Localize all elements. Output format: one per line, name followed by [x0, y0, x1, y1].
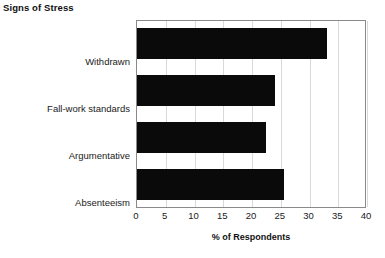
x-tick-label-5: 5 — [162, 210, 167, 221]
bar-1 — [137, 75, 275, 106]
category-label-3: Absenteeism — [2, 197, 130, 208]
x-tick-label-10: 10 — [188, 210, 199, 221]
bar-2 — [137, 122, 266, 153]
category-label-2: Argumentative — [2, 150, 130, 161]
x-axis-tick-labels: 0510152025303540 — [0, 210, 385, 224]
x-tick-label-40: 40 — [361, 210, 372, 221]
x-tick-label-25: 25 — [274, 210, 285, 221]
category-label-1: Fall-work standards — [2, 103, 130, 114]
x-tick-label-30: 30 — [303, 210, 314, 221]
bar-0 — [137, 28, 327, 59]
x-axis-title: % of Respondents — [136, 232, 366, 242]
bars-layer — [137, 21, 365, 207]
x-tick-label-0: 0 — [133, 210, 138, 221]
plot-area — [136, 20, 366, 208]
gridline-40 — [367, 21, 368, 207]
x-tick-label-20: 20 — [246, 210, 257, 221]
category-label-0: Withdrawn — [2, 56, 130, 67]
bar-chart: Signs of Stress Withdrawn Fall-work stan… — [0, 0, 385, 258]
x-tick-label-15: 15 — [217, 210, 228, 221]
chart-title: Signs of Stress — [3, 2, 74, 13]
bar-3 — [137, 169, 284, 200]
category-axis-labels: Withdrawn Fall-work standards Argumentat… — [0, 20, 130, 208]
x-tick-label-35: 35 — [332, 210, 343, 221]
